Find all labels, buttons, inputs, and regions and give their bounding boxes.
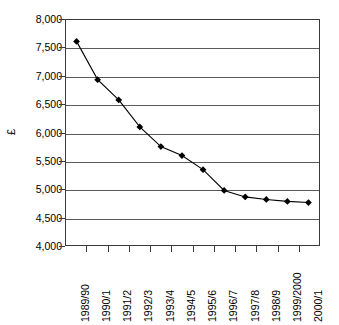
data-point-marker [284,198,291,205]
y-axis-tick-label: 5,500 [18,156,62,166]
x-axis-tick-label: 1993/4 [165,290,176,322]
y-axis-tick-label: 8,000 [18,14,62,24]
x-axis-tick-label: 1997/8 [250,290,261,322]
x-axis-tick-label: 1991/2 [122,290,133,322]
x-axis-tick-labels: 1989/901990/11991/21992/31993/41994/5199… [65,252,320,325]
y-axis-tick-label: 4,500 [18,213,62,223]
y-axis-tick-label: 6,000 [18,128,62,138]
x-axis-tick-label: 1994/5 [186,290,197,322]
x-axis-tick-label: 1992/3 [143,290,154,322]
x-axis-tick-label: 1998/9 [271,290,282,322]
x-axis-tick-label: 2000/1 [313,290,324,322]
data-point-marker [179,152,186,159]
line-chart: £ 8,0007,5007,0006,5006,0005,5005,0004,5… [0,0,339,325]
y-axis-tick-label: 6,500 [18,99,62,109]
y-axis-tick-label: 7,500 [18,42,62,52]
x-axis-tick-label: 1999/2000 [292,272,303,322]
series-line [66,20,319,245]
x-axis-tick-label: 1990/1 [101,290,112,322]
series-polyline [77,41,309,202]
data-point-marker [263,196,270,203]
data-point-marker [73,38,80,45]
y-axis-tick-label: 7,000 [18,71,62,81]
x-axis-tick-label: 1995/6 [207,290,218,322]
x-axis-tick-label: 1989/90 [80,284,91,322]
plot-area [65,19,320,246]
data-point-marker [242,194,249,201]
data-point-marker [305,199,312,206]
y-axis-tick-label: 4,000 [18,241,62,251]
y-axis-tick-label: 5,000 [18,184,62,194]
y-axis-tick-labels: 8,0007,5007,0006,5006,0005,5005,0004,500… [18,19,62,246]
x-axis-tick-label: 1996/7 [228,290,239,322]
